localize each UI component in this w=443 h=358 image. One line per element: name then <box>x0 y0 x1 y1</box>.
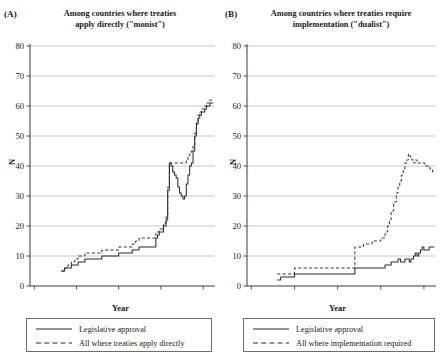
y-tick-label-80: 80 <box>232 41 241 51</box>
y-tick-label-40: 40 <box>15 161 24 171</box>
panel-b-title-line1: Among countries where treaties require <box>271 9 411 18</box>
y-tick-label-0: 0 <box>20 281 24 291</box>
legend-label-1: All where treaties apply directly <box>79 339 185 348</box>
x-tick-label-1950: 1950 <box>372 291 389 292</box>
panel-b: (B) Among countries where treaties requi… <box>221 0 442 358</box>
legend-item-legislative-approval-b: Legislative approval <box>251 323 363 335</box>
panel-a-letter: (A) <box>4 9 17 19</box>
panel-b-svg: 0102030405060708018001850190019502000 <box>221 40 442 292</box>
y-tick-label-70: 70 <box>15 71 24 81</box>
y-tick-label-50: 50 <box>15 131 24 141</box>
y-tick-label-0: 0 <box>237 281 241 291</box>
legend-label-0: Legislative approval <box>79 325 146 334</box>
y-tick-label-80: 80 <box>15 41 24 51</box>
series-line-solid <box>61 103 213 271</box>
y-tick-label-70: 70 <box>232 71 241 81</box>
x-tick-label-1950: 1950 <box>152 291 169 292</box>
panel-a-plot-area: 0102030405060708018001850190019502000 <box>0 40 221 292</box>
y-tick-label-50: 50 <box>232 131 241 141</box>
panel-b-plot-area: 0102030405060708018001850190019502000 <box>221 40 442 292</box>
panel-b-title-line2: implementation ("dualist") <box>293 20 390 29</box>
panel-a: (A) Among countries where treaties apply… <box>0 0 221 358</box>
legend-dashed-line-sample-b <box>251 338 291 348</box>
legend-item-all-apply-directly: All where treaties apply directly <box>34 337 185 349</box>
panel-a-title-line2: apply directly ("monist") <box>75 20 165 29</box>
panel-a-x-axis-label: Year <box>10 303 231 313</box>
panel-a-title: Among countries where treaties apply dir… <box>26 8 214 30</box>
x-tick-label-1850: 1850 <box>286 291 303 292</box>
legend-solid-line-sample <box>34 324 74 334</box>
x-tick-label-1800: 1800 <box>243 291 260 292</box>
x-tick-label-2000: 2000 <box>195 291 212 292</box>
y-tick-label-10: 10 <box>15 251 24 261</box>
legend-label-b-1: All where implementation required <box>296 339 411 348</box>
y-tick-label-10: 10 <box>232 251 241 261</box>
x-tick-label-1900: 1900 <box>329 291 346 292</box>
panel-a-legend: Legislative approval All where treaties … <box>26 318 212 352</box>
y-tick-label-20: 20 <box>232 221 241 231</box>
panel-b-y-axis-label: N <box>228 159 238 165</box>
series-line-dashed <box>61 100 213 271</box>
series-line-solid <box>277 247 434 280</box>
legend-solid-line-sample-b <box>251 324 291 334</box>
y-tick-label-60: 60 <box>232 101 241 111</box>
y-tick-label-30: 30 <box>15 191 24 201</box>
x-tick-label-1900: 1900 <box>110 291 127 292</box>
panel-b-x-axis-label: Year <box>227 303 443 313</box>
x-tick-label-1800: 1800 <box>26 291 43 292</box>
legend-label-b-0: Legislative approval <box>296 325 363 334</box>
legend-dashed-line-sample <box>34 338 74 348</box>
y-tick-label-20: 20 <box>15 221 24 231</box>
panel-a-title-line1: Among countries where treaties <box>64 9 176 18</box>
legend-item-legislative-approval: Legislative approval <box>34 323 146 335</box>
panel-a-svg: 0102030405060708018001850190019502000 <box>0 40 221 292</box>
panel-b-title: Among countries where treaties require i… <box>247 8 435 30</box>
y-tick-label-60: 60 <box>15 101 24 111</box>
legend-item-all-implementation-required: All where implementation required <box>251 337 411 349</box>
x-tick-label-1850: 1850 <box>68 291 85 292</box>
x-tick-label-2000: 2000 <box>415 291 432 292</box>
panel-b-letter: (B) <box>225 9 237 19</box>
y-tick-label-30: 30 <box>232 191 241 201</box>
panel-b-legend: Legislative approval All where implement… <box>243 318 435 352</box>
